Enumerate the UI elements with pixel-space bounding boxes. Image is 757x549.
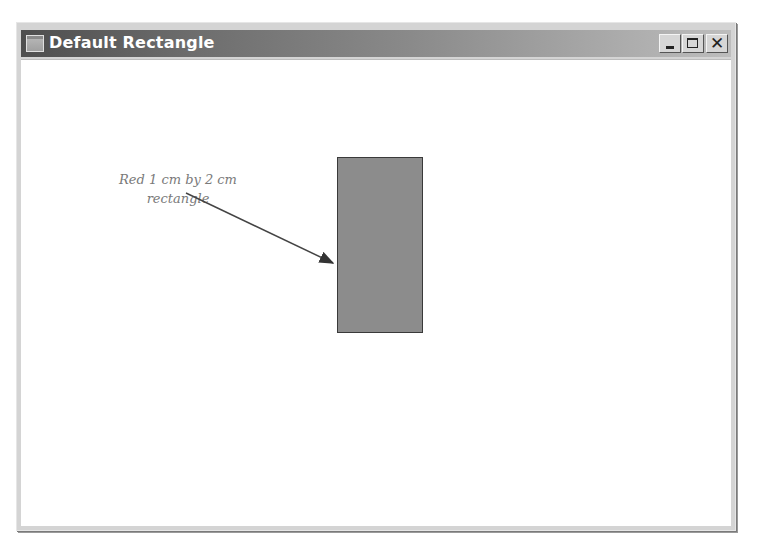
drawing-canvas: Red 1 cm by 2 cm rectangle (21, 59, 731, 526)
app-window: Default Rectangle ✕ Red 1 cm by 2 cm rec… (16, 22, 736, 531)
window-title: Default Rectangle (49, 33, 215, 52)
window-app-icon[interactable] (26, 35, 44, 52)
minimize-button[interactable] (659, 34, 681, 53)
maximize-icon (687, 38, 698, 48)
title-bar[interactable]: Default Rectangle ✕ (21, 30, 731, 57)
close-icon: ✕ (707, 33, 727, 53)
default-rectangle (337, 157, 423, 333)
maximize-button[interactable] (682, 34, 704, 53)
close-button[interactable]: ✕ (706, 34, 728, 53)
minimize-icon (666, 46, 674, 49)
